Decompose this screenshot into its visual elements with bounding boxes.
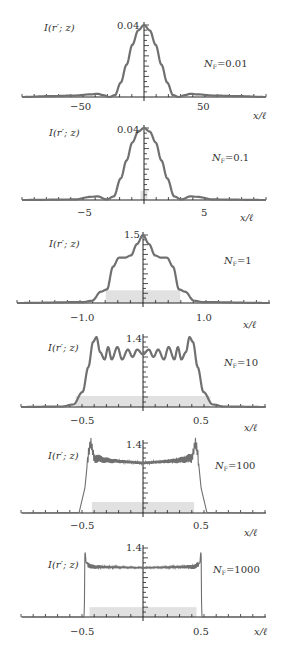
nf-symbol: N xyxy=(204,58,213,69)
xlabel-panel-4: x/ℓ xyxy=(244,423,257,433)
ylabel-panel-4: I(r′; z) xyxy=(48,343,79,353)
xtick-label-neg-panel-6: −0.5 xyxy=(70,627,94,637)
figure-canvas xyxy=(0,0,284,648)
nf-value: =100 xyxy=(228,460,255,471)
ylabel-panel-3: I(r′; z) xyxy=(49,239,80,249)
ylabel-panel-1: I(r′; z) xyxy=(44,23,75,33)
nf-symbol: N xyxy=(224,357,233,368)
nf-label-panel-1: NF=0.01 xyxy=(204,59,248,70)
nf-symbol: N xyxy=(224,255,233,266)
xtick-label-pos-panel-3: 1.0 xyxy=(196,313,212,323)
ymax-label-panel-2: 0.04 xyxy=(117,125,139,135)
nf-value: =0.1 xyxy=(225,152,249,163)
ylabel-panel-2: I(r′; z) xyxy=(49,128,80,138)
ymax-label-panel-3: 1.5 xyxy=(124,230,140,240)
ylabel-panel-6: I(r′; z) xyxy=(48,560,79,570)
xtick-label-neg-panel-3: −1.0 xyxy=(70,313,94,323)
ymax-label-panel-5: 1.4 xyxy=(126,440,142,450)
nf-label-panel-6: NF=1000 xyxy=(213,565,260,576)
ymax-label-panel-6: 1.4 xyxy=(126,543,142,553)
ylabel-panel-5: I(r′; z) xyxy=(48,451,79,461)
xlabel-panel-3: x/ℓ xyxy=(243,320,256,330)
nf-symbol: N xyxy=(215,460,224,471)
nf-value: =0.01 xyxy=(217,58,248,69)
nf-value: =1 xyxy=(237,255,252,266)
xtick-label-neg-panel-5: −0.5 xyxy=(70,521,94,531)
ymax-label-panel-4: 1.4 xyxy=(126,334,142,344)
nf-label-panel-2: NF=0.1 xyxy=(212,153,249,164)
nf-label-panel-5: NF=100 xyxy=(215,461,255,472)
nf-symbol: N xyxy=(212,152,221,163)
ymax-label-panel-1: 0.04 xyxy=(117,21,139,31)
xlabel-panel-6: x/ℓ xyxy=(254,627,267,637)
xtick-label-pos-panel-2: 5 xyxy=(201,208,207,218)
xlabel-panel-5: x/ℓ xyxy=(244,528,257,538)
xtick-label-pos-panel-4: 0.5 xyxy=(193,416,209,426)
nf-value: =1000 xyxy=(226,564,260,575)
nf-symbol: N xyxy=(213,564,222,575)
xtick-label-pos-panel-6: 0.5 xyxy=(193,627,209,637)
nf-label-panel-3: NF=1 xyxy=(224,256,252,267)
xtick-label-neg-panel-2: −5 xyxy=(77,208,92,218)
xlabel-panel-1: x/ℓ xyxy=(253,111,266,121)
xtick-label-pos-panel-5: 0.5 xyxy=(193,521,209,531)
xtick-label-pos-panel-1: 50 xyxy=(197,102,210,112)
nf-label-panel-4: NF=10 xyxy=(224,358,258,369)
xtick-label-neg-panel-4: −0.5 xyxy=(70,416,94,426)
xlabel-panel-2: x/ℓ xyxy=(240,213,253,223)
xtick-label-neg-panel-1: −50 xyxy=(70,102,91,112)
nf-value: =10 xyxy=(237,357,258,368)
